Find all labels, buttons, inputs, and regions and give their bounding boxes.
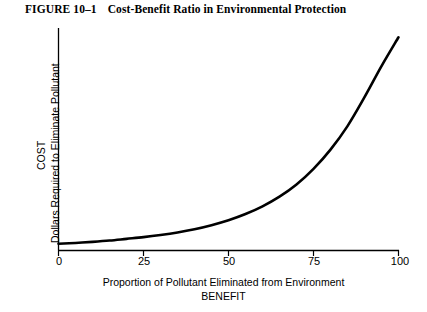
x-axis-title-benefit: BENEFIT bbox=[201, 290, 245, 302]
x-axis-title-row: Proportion of Pollutant Eliminated from … bbox=[0, 276, 427, 288]
y-axis-title-cost: COST bbox=[35, 141, 47, 170]
y-axis-title-group: COST Dollars Required to Eliminate Pollu… bbox=[0, 0, 56, 250]
x-tick-label-100: 100 bbox=[391, 255, 409, 267]
y-axis-title-detail: Dollars Required to Eliminate Pollutant bbox=[49, 63, 61, 243]
x-tick-label-0: 0 bbox=[56, 255, 62, 267]
figure-container: FIGURE 10–1Cost-Benefit Ratio in Environ… bbox=[0, 0, 427, 312]
x-axis-title-main: Proportion of Pollutant Eliminated from … bbox=[103, 276, 345, 288]
cost-curve-line bbox=[59, 37, 399, 244]
chart-plot-area bbox=[0, 0, 427, 312]
x-tick-label-25: 25 bbox=[138, 255, 150, 267]
x-tick-label-50: 50 bbox=[223, 255, 235, 267]
x-axis-title-row-2: BENEFIT bbox=[0, 290, 427, 302]
x-tick-label-75: 75 bbox=[308, 255, 320, 267]
